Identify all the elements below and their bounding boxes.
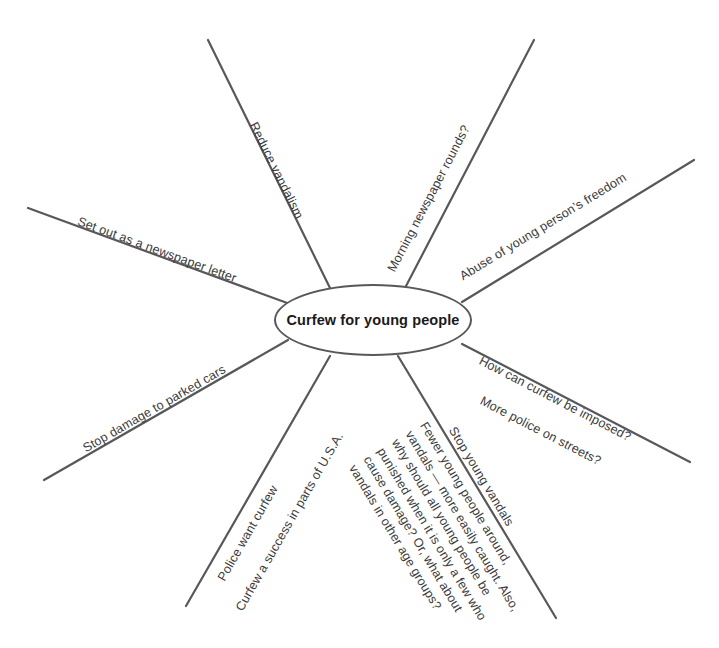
mind-map-canvas: Curfew for young people Reduce vandalism… (0, 0, 719, 648)
central-topic-node[interactable]: Curfew for young people (274, 284, 472, 356)
branch-line-abuse-of-young-persons-freedom (462, 160, 694, 302)
central-topic-label: Curfew for young people (286, 312, 459, 328)
